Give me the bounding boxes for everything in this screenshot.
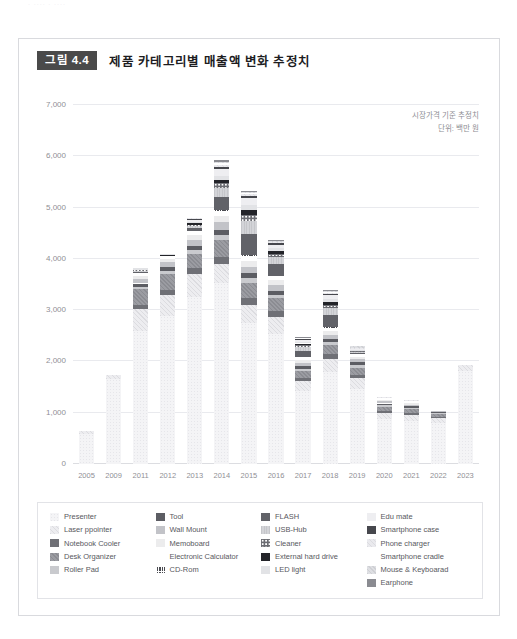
- bar-segment-cd_rom[interactable]: [214, 210, 229, 212]
- bar-segment-led_light[interactable]: [323, 299, 338, 302]
- bar-segment-earphone[interactable]: [268, 240, 283, 241]
- bar-segment-memoboard[interactable]: [214, 216, 229, 222]
- legend-item-cd_rom[interactable]: CD-Rom: [156, 565, 262, 575]
- bar-segment-presenter[interactable]: [377, 419, 392, 464]
- bar-segment-led_light[interactable]: [214, 176, 229, 180]
- bar-segment-cd_rom[interactable]: [323, 327, 338, 329]
- bar-segment-presenter[interactable]: [106, 379, 121, 464]
- bar-segment-smartphone_cradle[interactable]: [323, 292, 338, 293]
- bar-segment-smartphone_case[interactable]: [268, 243, 283, 244]
- bar-segment-mouse_keyboard[interactable]: [214, 162, 229, 163]
- bar-segment-electronic_calculator[interactable]: [323, 329, 338, 332]
- bar-segment-laser_pointer[interactable]: [241, 305, 256, 323]
- stacked-bar[interactable]: [268, 249, 283, 464]
- bar-segment-flash[interactable]: [323, 315, 338, 327]
- legend-item-roller_pad[interactable]: Roller Pad: [50, 565, 156, 575]
- bar-segment-wall_mount[interactable]: [295, 363, 310, 366]
- bar-segment-notebook_cooler[interactable]: [160, 290, 175, 296]
- bar-segment-external_hard_drive[interactable]: [187, 223, 202, 224]
- bar-segment-cd_rom[interactable]: [295, 357, 310, 358]
- stacked-bar[interactable]: [377, 397, 392, 464]
- legend-item-phone_charger[interactable]: Phone charger: [367, 539, 473, 549]
- bar-segment-notebook_cooler[interactable]: [377, 411, 392, 413]
- bar-segment-notebook_cooler[interactable]: [187, 268, 202, 274]
- bar-segment-laser_pointer[interactable]: [187, 274, 202, 298]
- legend-item-wall_mount[interactable]: Wall Mount: [156, 525, 262, 535]
- bar-segment-presenter[interactable]: [431, 423, 446, 464]
- bar-segment-cleaner[interactable]: [214, 183, 229, 188]
- stacked-bar[interactable]: [295, 343, 310, 464]
- legend-item-smartphone_case[interactable]: Smartphone case: [367, 525, 473, 535]
- stacked-bar[interactable]: [458, 365, 473, 464]
- stacked-bar[interactable]: [133, 269, 148, 464]
- bar-segment-led_light[interactable]: [187, 222, 202, 223]
- bar-segment-wall_mount[interactable]: [404, 405, 419, 407]
- bar-segment-usb_hub[interactable]: [214, 188, 229, 197]
- bar-segment-laser_pointer[interactable]: [404, 415, 419, 421]
- legend-item-desk_organizer[interactable]: Desk Organizer: [50, 552, 156, 562]
- bar-segment-laser_pointer[interactable]: [106, 375, 121, 379]
- bar-segment-desk_organizer[interactable]: [323, 345, 338, 354]
- bar-segment-edu_mate[interactable]: [350, 349, 365, 350]
- bar-segment-presenter[interactable]: [241, 323, 256, 464]
- legend-item-mouse_keyboard[interactable]: Mouse & Keyboarad: [367, 565, 473, 575]
- bar-segment-cd_rom[interactable]: [268, 276, 283, 278]
- bar-segment-memoboard[interactable]: [323, 331, 338, 335]
- bar-segment-smartphone_case[interactable]: [214, 167, 229, 170]
- bar-segment-roller_pad[interactable]: [214, 235, 229, 240]
- bar-segment-notebook_cooler[interactable]: [295, 378, 310, 382]
- legend-item-smartphone_cradle[interactable]: Smartphone cradle: [367, 552, 473, 562]
- bar-segment-phone_charger[interactable]: [377, 397, 392, 398]
- bar-segment-mouse_keyboard[interactable]: [350, 346, 365, 347]
- stacked-bar[interactable]: [350, 347, 365, 464]
- stacked-bar[interactable]: [323, 299, 338, 464]
- bar-segment-notebook_cooler[interactable]: [268, 311, 283, 317]
- legend-item-external_hard_drive[interactable]: External hard drive: [261, 552, 367, 562]
- stacked-bar[interactable]: [106, 375, 121, 464]
- bar-segment-cleaner[interactable]: [187, 224, 202, 225]
- bar-segment-memoboard[interactable]: [160, 259, 175, 263]
- bar-segment-flash[interactable]: [241, 234, 256, 256]
- stacked-bar[interactable]: [160, 255, 175, 464]
- bar-segment-desk_organizer[interactable]: [214, 240, 229, 257]
- bar-segment-laser_pointer[interactable]: [350, 378, 365, 388]
- bar-segment-flash[interactable]: [268, 264, 283, 276]
- bar-segment-memoboard[interactable]: [404, 403, 419, 405]
- bar-segment-presenter[interactable]: [268, 334, 283, 464]
- bar-segment-flash[interactable]: [214, 197, 229, 210]
- bar-segment-laser_pointer[interactable]: [79, 431, 94, 434]
- bar-segment-phone_charger[interactable]: [214, 165, 229, 167]
- bar-segment-electronic_calculator[interactable]: [241, 257, 256, 261]
- bar-segment-notebook_cooler[interactable]: [350, 375, 365, 379]
- legend-item-electronic_calculator[interactable]: Electronic Calculator: [156, 552, 262, 562]
- bar-segment-notebook_cooler[interactable]: [241, 298, 256, 305]
- bar-segment-external_hard_drive[interactable]: [214, 180, 229, 183]
- bar-segment-laser_pointer[interactable]: [458, 365, 473, 371]
- bar-segment-laser_pointer[interactable]: [268, 317, 283, 334]
- bar-segment-laser_pointer[interactable]: [160, 295, 175, 316]
- bar-segment-roller_pad[interactable]: [377, 405, 392, 407]
- bar-segment-smartphone_case[interactable]: [187, 219, 202, 220]
- legend-item-earphone[interactable]: Earphone: [367, 578, 473, 588]
- bar-segment-laser_pointer[interactable]: [377, 413, 392, 419]
- bar-segment-usb_hub[interactable]: [350, 352, 365, 353]
- bar-segment-notebook_cooler[interactable]: [133, 305, 148, 310]
- bar-segment-tool[interactable]: [133, 284, 148, 287]
- bar-segment-electronic_calculator[interactable]: [295, 358, 310, 360]
- legend-item-tool[interactable]: Tool: [156, 512, 262, 522]
- bar-segment-tool[interactable]: [350, 362, 365, 365]
- stacked-bar[interactable]: [431, 411, 446, 464]
- legend-item-flash[interactable]: FLASH: [261, 512, 367, 522]
- stacked-bar[interactable]: [241, 199, 256, 464]
- bar-segment-memoboard[interactable]: [187, 235, 202, 240]
- bar-segment-memoboard[interactable]: [377, 400, 392, 402]
- bar-segment-wall_mount[interactable]: [431, 411, 446, 412]
- bar-segment-roller_pad[interactable]: [133, 287, 148, 290]
- bar-segment-presenter[interactable]: [133, 331, 148, 464]
- bar-segment-tool[interactable]: [241, 273, 256, 278]
- bar-segment-laser_pointer[interactable]: [295, 381, 310, 391]
- bar-segment-edu_mate[interactable]: [268, 245, 283, 249]
- bar-segment-phone_charger[interactable]: [404, 400, 419, 401]
- bar-segment-electronic_calculator[interactable]: [187, 232, 202, 235]
- bar-segment-external_hard_drive[interactable]: [295, 344, 310, 346]
